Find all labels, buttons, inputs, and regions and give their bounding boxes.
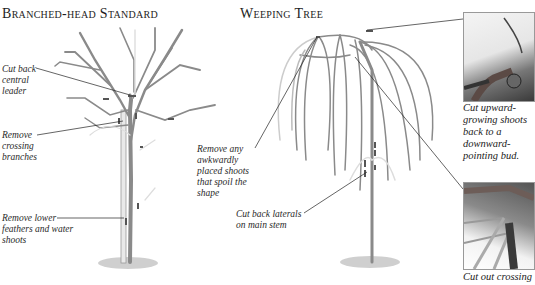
label-remove-crossing-branches: Remove crossing branches (2, 130, 37, 163)
branched-leader-lines (36, 68, 130, 218)
label-remove-lower-feathers: Remove lower feathers and water shoots (2, 213, 73, 246)
photo-crossing-branches (463, 182, 535, 270)
photo-upward-shoots (463, 12, 535, 102)
photo-upward-shoots-caption: Cut upward- growing shoots back to a dow… (463, 102, 527, 162)
photo-crossing-branches-image (464, 183, 534, 269)
label-remove-awkward-shoots: Remove any awkwardly placed shoots that … (197, 144, 249, 199)
weeping-tree (278, 35, 432, 268)
label-cut-back-laterals: Cut back laterals on main stem (236, 209, 301, 231)
photo-upward-shoots-image (464, 13, 534, 101)
label-cut-back-central-leader: Cut back central leader (2, 64, 36, 97)
photo-crossing-branches-caption: Cut out crossing (463, 271, 532, 283)
branched-standard-tree (55, 28, 215, 269)
weeping-leader-lines (255, 19, 463, 213)
